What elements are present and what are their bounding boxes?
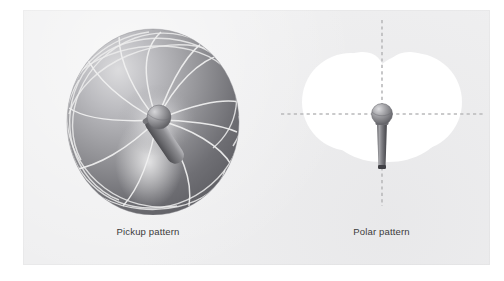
pickup-pattern-caption: Pickup pattern xyxy=(23,226,273,237)
pickup-pattern-panel: Pickup pattern xyxy=(23,10,273,265)
polar-pattern-art xyxy=(273,10,490,215)
polar-pattern-panel: Polar pattern xyxy=(273,10,490,265)
illustration-panel: Pickup pattern xyxy=(23,10,490,265)
microphone-2d-base xyxy=(378,165,386,169)
pickup-pattern-svg xyxy=(23,10,273,215)
polar-pattern-svg xyxy=(273,10,490,215)
microphone-2d-handle xyxy=(377,122,387,168)
figure-root: Pickup pattern xyxy=(0,0,504,281)
pickup-pattern-art xyxy=(23,10,273,215)
polar-pattern-caption: Polar pattern xyxy=(273,226,490,237)
